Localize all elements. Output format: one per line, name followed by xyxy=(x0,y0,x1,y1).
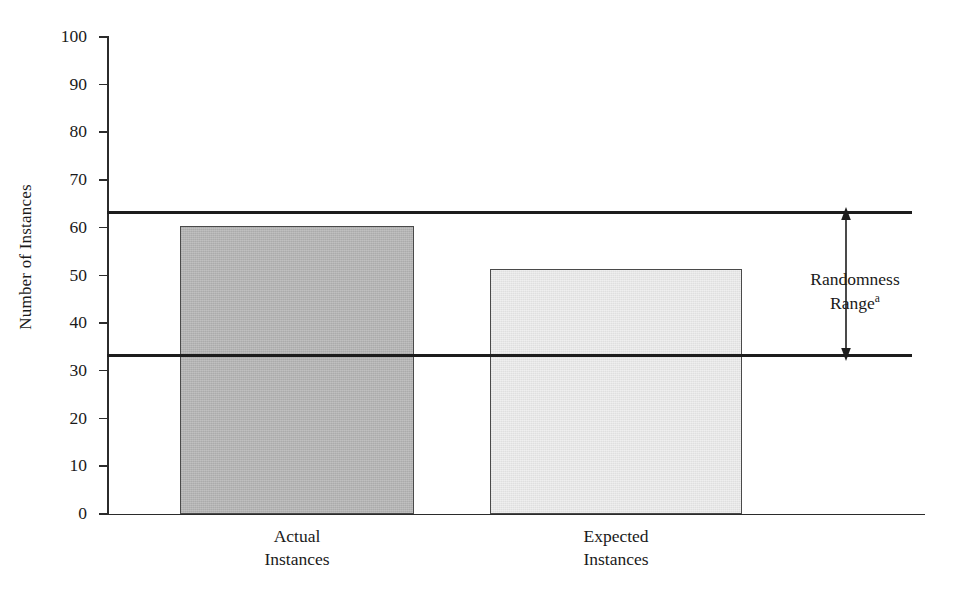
y-tick-label-40: 40 xyxy=(43,314,87,332)
y-tick-mark-40 xyxy=(99,322,108,324)
y-tick-mark-70 xyxy=(99,179,108,181)
x-category-label-expected: Expected Instances xyxy=(466,525,766,571)
y-tick-mark-100 xyxy=(99,36,108,38)
y-tick-mark-90 xyxy=(99,84,108,86)
y-tick-mark-20 xyxy=(99,418,108,420)
randomness-range-annotation-line2: Rangea xyxy=(770,292,940,316)
randomness-range-annotation: Randomness Rangea xyxy=(770,268,940,315)
reference-line-randomness-lower xyxy=(107,354,912,357)
x-category-label-actual-line2: Instances xyxy=(147,548,447,571)
reference-line-randomness-upper xyxy=(107,211,912,214)
y-axis-title: Number of Instances xyxy=(16,137,36,377)
randomness-range-annotation-line2-text: Range xyxy=(830,293,875,313)
y-tick-label-100: 100 xyxy=(43,28,87,46)
y-tick-label-80: 80 xyxy=(43,123,87,141)
y-tick-mark-10 xyxy=(99,465,108,467)
chart-figure: Number of Instances 100 90 80 70 60 50 4… xyxy=(0,0,953,594)
y-tick-mark-60 xyxy=(99,227,108,229)
y-tick-label-60: 60 xyxy=(43,219,87,237)
y-tick-mark-50 xyxy=(99,275,108,277)
x-category-label-expected-line1: Expected xyxy=(466,525,766,548)
y-tick-label-50: 50 xyxy=(43,267,87,285)
y-tick-mark-80 xyxy=(99,131,108,133)
x-category-label-expected-line2: Instances xyxy=(466,548,766,571)
randomness-range-annotation-line1: Randomness xyxy=(770,268,940,292)
y-tick-label-30: 30 xyxy=(43,362,87,380)
y-tick-label-90: 90 xyxy=(43,76,87,94)
y-tick-label-20: 20 xyxy=(43,410,87,428)
footnote-marker: a xyxy=(875,292,880,304)
y-tick-mark-0 xyxy=(99,513,108,515)
x-category-label-actual-line1: Actual xyxy=(147,525,447,548)
y-tick-mark-30 xyxy=(99,370,108,372)
y-tick-label-70: 70 xyxy=(43,171,87,189)
bar-actual-instances xyxy=(180,226,414,514)
y-tick-label-10: 10 xyxy=(43,457,87,475)
y-tick-label-0: 0 xyxy=(43,505,87,523)
bar-expected-instances xyxy=(490,269,742,514)
x-category-label-actual: Actual Instances xyxy=(147,525,447,571)
